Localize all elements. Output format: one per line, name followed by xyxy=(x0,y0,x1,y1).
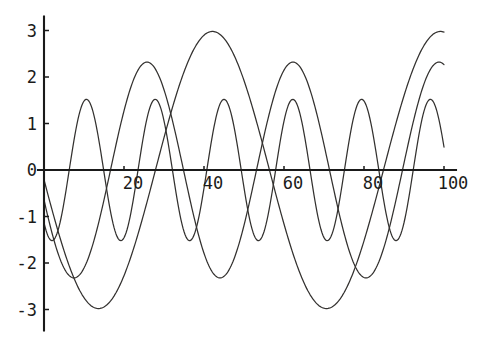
y-tick-label-1: 1 xyxy=(27,114,37,134)
x-tick-label-60: 60 xyxy=(283,173,303,193)
y-tick-label--1: -1 xyxy=(17,207,37,227)
x-tick-label-100: 100 xyxy=(438,173,469,193)
axes-group xyxy=(38,17,456,331)
x-tick-label-20: 20 xyxy=(123,173,143,193)
x-tick-label-40: 40 xyxy=(203,173,223,193)
y-tick-label--2: -2 xyxy=(17,253,37,273)
x-tick-label-80: 80 xyxy=(363,173,383,193)
y-tick-label--3: -3 xyxy=(17,300,37,320)
oscillation-plot: 204060801003210-1-2-3 xyxy=(0,0,487,353)
y-tick-label-0: 0 xyxy=(27,160,37,180)
y-tick-label-2: 2 xyxy=(27,67,37,87)
chart-figure: 204060801003210-1-2-3 xyxy=(0,0,487,353)
y-tick-label-3: 3 xyxy=(27,21,37,41)
